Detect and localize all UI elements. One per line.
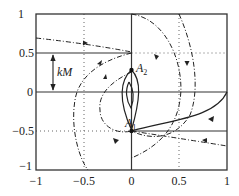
- svg-text:1: 1: [224, 174, 230, 188]
- svg-text:1: 1: [18, 7, 24, 21]
- svg-text:−1: −1: [30, 174, 43, 188]
- svg-text:0: 0: [129, 174, 135, 188]
- svg-text:0.5: 0.5: [172, 174, 187, 188]
- point-a2: [129, 68, 133, 72]
- reference-lines: [36, 14, 227, 170]
- label-a2: A2: [135, 61, 147, 77]
- solid-curves: [122, 70, 227, 131]
- svg-text:0.5: 0.5: [19, 46, 34, 60]
- km-label: kM: [57, 65, 73, 79]
- svg-text:−0.5: −0.5: [73, 174, 95, 188]
- y-tick-labels: 1 0.5 0 −0.5 −1: [12, 7, 34, 173]
- svg-text:−0.5: −0.5: [12, 124, 34, 138]
- svg-text:0: 0: [27, 85, 33, 99]
- x-tick-labels: −1 −0.5 0 0.5 1: [30, 174, 230, 188]
- phase-portrait-diagram: A2 A1 kM 1 0.5 0 −0.5 −1 −1 −0.5 0 0.5 1: [0, 0, 239, 196]
- svg-text:−1: −1: [19, 159, 32, 173]
